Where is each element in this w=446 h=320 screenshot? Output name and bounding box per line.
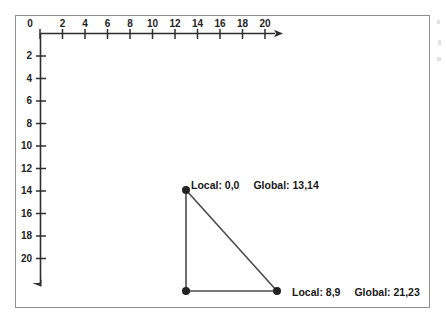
x-tick-label-2: 2 xyxy=(60,19,66,29)
annotation-top-global-text: Global: 13,14 xyxy=(253,179,318,191)
annotation-top-local-text: Local: 0,0 xyxy=(191,179,239,191)
vertex-marker-bottom-right xyxy=(273,287,281,295)
y-tick-label-18: 18 xyxy=(21,231,32,241)
y-tick-label-16: 16 xyxy=(21,209,32,219)
scan-artifact-1 xyxy=(437,20,440,24)
y-tick-label-2: 2 xyxy=(26,51,32,61)
y-tick-label-12: 12 xyxy=(21,164,32,174)
scan-artifact-2 xyxy=(438,40,441,45)
annotation-bottom-right-vertex: Local: 8,9Global: 21,23 xyxy=(292,287,420,298)
x-tick-label-0: 0 xyxy=(27,19,33,29)
annotation-bottom-global-text: Global: 21,23 xyxy=(354,286,419,298)
annotation-bottom-local-text: Local: 8,9 xyxy=(292,286,340,298)
x-tick-label-14: 14 xyxy=(192,19,203,29)
y-tick-label-20: 20 xyxy=(21,254,32,264)
x-tick-label-18: 18 xyxy=(237,19,248,29)
x-tick-label-4: 4 xyxy=(82,19,88,29)
x-tick-label-20: 20 xyxy=(259,19,270,29)
vertex-marker-top-left xyxy=(182,186,190,194)
triangle-edge-hypotenuse xyxy=(186,190,277,291)
y-axis-group xyxy=(36,33,46,283)
y-tick-label-8: 8 xyxy=(26,119,32,129)
scan-artifact-3 xyxy=(437,57,441,61)
y-tick-label-14: 14 xyxy=(21,186,32,196)
x-tick-label-8: 8 xyxy=(127,19,133,29)
x-tick-label-6: 6 xyxy=(105,19,111,29)
vertex-marker-bottom-left xyxy=(182,287,190,295)
x-axis-group xyxy=(40,29,275,39)
x-tick-label-10: 10 xyxy=(147,19,158,29)
y-tick-label-4: 4 xyxy=(26,74,32,84)
triangle-shape-group xyxy=(182,186,281,295)
y-tick-label-6: 6 xyxy=(26,96,32,106)
coordinate-diagram-canvas xyxy=(0,0,446,320)
annotation-top-vertex: Local: 0,0Global: 13,14 xyxy=(191,180,319,191)
figure-root: 0 2 4 6 8 10 12 14 16 18 20 2 4 6 8 10 1… xyxy=(0,0,446,320)
x-tick-label-16: 16 xyxy=(214,19,225,29)
x-tick-label-12: 12 xyxy=(169,19,180,29)
y-tick-label-10: 10 xyxy=(21,141,32,151)
